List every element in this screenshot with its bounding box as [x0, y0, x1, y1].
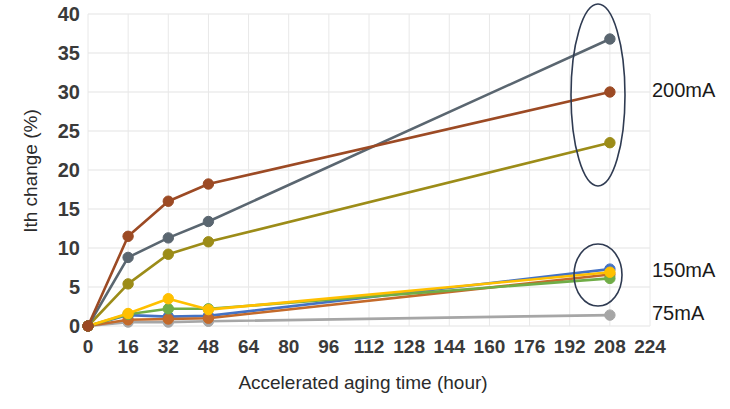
data-point-marker — [123, 308, 133, 318]
series-75mA — [83, 310, 615, 331]
annotation-label-75ma: 75mA — [652, 302, 704, 325]
data-point-marker — [203, 237, 213, 247]
data-point-marker — [163, 196, 173, 206]
data-point-marker — [203, 304, 213, 314]
data-point-marker — [163, 249, 173, 259]
chart-container: Ith change (%) 0510152025303540 01632486… — [0, 0, 730, 409]
data-point-marker — [123, 279, 133, 289]
data-point-marker — [605, 267, 615, 277]
data-point-marker — [163, 294, 173, 304]
data-point-marker — [605, 138, 615, 148]
data-point-marker — [163, 233, 173, 243]
data-point-marker — [83, 321, 93, 331]
data-point-marker — [123, 231, 133, 241]
data-point-marker — [123, 252, 133, 262]
data-point-marker — [163, 314, 173, 324]
data-point-marker — [605, 34, 615, 44]
data-point-marker — [605, 310, 615, 320]
annotation-label-200ma: 200mA — [652, 79, 715, 102]
data-point-marker — [605, 87, 615, 97]
data-point-marker — [203, 216, 213, 226]
data-point-marker — [163, 304, 173, 314]
data-point-marker — [203, 179, 213, 189]
plot-area — [0, 0, 730, 409]
annotation-label-150ma: 150mA — [652, 259, 715, 282]
